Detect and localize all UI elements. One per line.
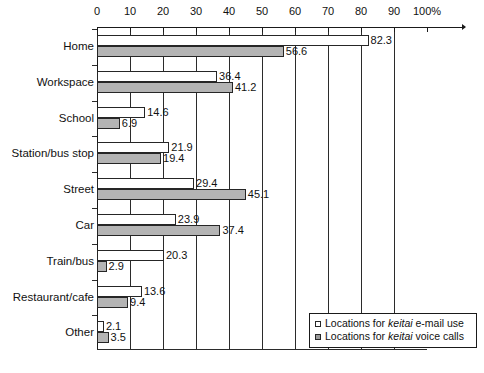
bar-voice-4 [97, 189, 246, 200]
x-axis-tick-60: 60 [289, 5, 301, 17]
category-tick-5 [92, 208, 97, 209]
bar-value-email-2: 14.6 [147, 107, 168, 118]
category-tick-2 [92, 101, 97, 102]
category-label-restaurant-cafe: Restaurant/cafe [13, 291, 94, 303]
tickmark-30 [196, 27, 197, 32]
bar-voice-5 [97, 225, 220, 236]
x-axis-arrow-icon [462, 24, 466, 30]
bar-value-voice-2: 6.9 [122, 118, 137, 129]
category-label-station-bus-stop: Station/bus stop [12, 147, 94, 159]
category-tick-7 [92, 280, 97, 281]
x-axis-tick-100: 100% [413, 5, 441, 17]
bar-value-voice-7: 9.4 [130, 297, 145, 308]
bar-voice-2 [97, 118, 120, 129]
bar-value-voice-0: 56.6 [286, 46, 307, 57]
bar-email-3 [97, 142, 169, 153]
bar-email-8 [97, 321, 104, 332]
category-tick-6 [92, 244, 97, 245]
bar-voice-1 [97, 82, 233, 93]
bar-value-voice-4: 45.1 [248, 189, 269, 200]
legend-item-voice: Locations for keitai voice calls [315, 330, 471, 343]
tickmark-10 [130, 27, 131, 32]
bar-value-voice-6: 2.9 [109, 261, 124, 272]
category-tick-0 [92, 29, 97, 30]
legend-label-email: Locations for keitai e-mail use [325, 317, 464, 330]
category-label-other: Other [65, 326, 94, 338]
category-label-workspace: Workspace [37, 76, 94, 88]
category-tick-4 [92, 172, 97, 173]
tickmark-70 [328, 27, 329, 32]
tickmark-60 [295, 27, 296, 32]
bar-value-email-4: 29.4 [196, 178, 217, 189]
bar-email-5 [97, 214, 176, 225]
chart-legend: Locations for keitai e-mail use Location… [309, 313, 477, 348]
tickmark-20 [163, 27, 164, 32]
x-axis-tick-10: 10 [124, 5, 136, 17]
tickmark-40 [229, 27, 230, 32]
bar-value-voice-3: 19.4 [163, 153, 184, 164]
x-axis-tick-30: 30 [190, 5, 202, 17]
category-label-car: Car [75, 219, 94, 231]
category-tick-8 [92, 315, 97, 316]
legend-swatch-voice-icon [315, 334, 321, 340]
legend-swatch-email-icon [315, 321, 321, 327]
gridline-60 [295, 27, 296, 350]
x-axis-tick-80: 80 [355, 5, 367, 17]
category-label-home: Home [63, 40, 94, 52]
gridline-80 [361, 27, 362, 350]
bar-value-email-5: 23.9 [178, 214, 199, 225]
bar-voice-7 [97, 297, 128, 308]
bar-voice-3 [97, 153, 161, 164]
category-label-train-bus: Train/bus [46, 255, 94, 267]
bar-value-voice-1: 41.2 [235, 82, 256, 93]
x-axis-tick-0: 0 [94, 5, 100, 17]
bar-voice-8 [97, 332, 109, 343]
legend-label-voice: Locations for keitai voice calls [325, 330, 464, 343]
x-axis-tick-50: 50 [256, 5, 268, 17]
category-label-street: Street [63, 183, 94, 195]
bar-value-email-0: 82.3 [371, 35, 392, 46]
bar-email-4 [97, 178, 194, 189]
tickmark-90 [394, 27, 395, 32]
category-label-school: School [59, 112, 94, 124]
bar-value-email-6: 20.3 [166, 250, 187, 261]
tickmark-0 [97, 27, 98, 32]
tickmark-50 [262, 27, 263, 32]
x-axis-tick-20: 20 [157, 5, 169, 17]
legend-item-email: Locations for keitai e-mail use [315, 317, 471, 330]
bar-email-0 [97, 35, 369, 46]
x-axis-tick-90: 90 [388, 5, 400, 17]
bar-voice-0 [97, 46, 284, 57]
category-tick-3 [92, 136, 97, 137]
gridline-70 [328, 27, 329, 350]
bar-value-voice-5: 37.4 [222, 225, 243, 236]
x-axis-tick-labels: 0102030405060708090100% [0, 0, 484, 22]
bar-voice-6 [97, 261, 107, 272]
x-axis-tick-40: 40 [223, 5, 235, 17]
bar-email-6 [97, 250, 164, 261]
x-axis-tick-70: 70 [322, 5, 334, 17]
horizontal-bar-chart: 0102030405060708090100% HomeWorkspaceSch… [0, 0, 484, 373]
bar-value-voice-8: 3.5 [111, 332, 126, 343]
bar-email-1 [97, 71, 217, 82]
bar-value-email-7: 13.6 [144, 286, 165, 297]
gridline-90 [394, 27, 395, 350]
tickmark-80 [361, 27, 362, 32]
category-tick-1 [92, 65, 97, 66]
tickmark-100 [427, 27, 428, 32]
